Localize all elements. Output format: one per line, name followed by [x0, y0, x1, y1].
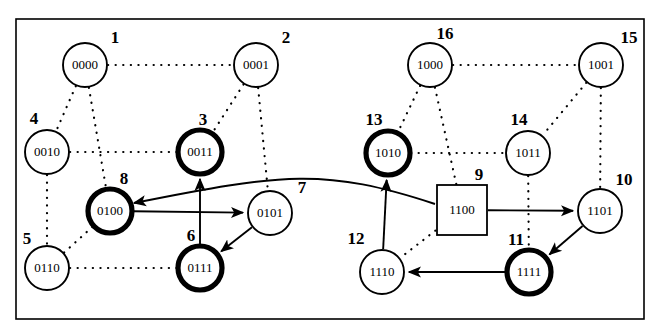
- node-index-15: 15: [621, 28, 638, 47]
- node-index-3: 3: [199, 110, 208, 129]
- edge-1000-1100: [435, 87, 456, 184]
- node-binary-label: 0000: [72, 57, 98, 72]
- edge-0110-0100: [64, 226, 93, 252]
- node-0101[interactable]: 01017: [248, 178, 307, 235]
- node-0000[interactable]: 00001: [63, 28, 119, 87]
- node-0001[interactable]: 00012: [234, 28, 290, 87]
- arrow-0100-to-0101: [133, 211, 243, 212]
- node-index-6: 6: [187, 226, 196, 245]
- node-1011[interactable]: 101114: [506, 110, 550, 175]
- node-0010[interactable]: 00104: [25, 109, 69, 174]
- node-index-1: 1: [111, 28, 120, 47]
- node-1000[interactable]: 100016: [408, 24, 454, 87]
- node-0110[interactable]: 01105: [23, 229, 69, 290]
- node-1100[interactable]: 11009: [437, 165, 487, 235]
- node-binary-label: 0111: [187, 260, 212, 275]
- node-binary-label: 0011: [187, 144, 213, 159]
- node-1111[interactable]: 111111: [507, 230, 551, 294]
- arrow-1101-to-1111: [549, 226, 582, 254]
- node-1001[interactable]: 100115: [579, 28, 638, 87]
- node-1101[interactable]: 110110: [578, 170, 633, 233]
- edge-1001-1101: [600, 88, 601, 188]
- node-index-14: 14: [511, 110, 529, 129]
- node-index-4: 4: [30, 109, 39, 128]
- node-index-13: 13: [366, 110, 383, 129]
- node-binary-label: 1100: [449, 202, 475, 217]
- node-binary-label: 1011: [515, 145, 541, 160]
- edge-0000-0100: [89, 88, 106, 189]
- node-index-7: 7: [298, 178, 307, 197]
- node-1110[interactable]: 111012: [348, 229, 405, 294]
- node-index-10: 10: [616, 170, 633, 189]
- node-0100[interactable]: 01008: [88, 169, 132, 233]
- node-index-12: 12: [348, 229, 365, 248]
- node-binary-label: 1001: [588, 57, 614, 72]
- edge-1001-1011: [543, 83, 587, 136]
- diagram-svg: 0000100012001130010401105011160101701008…: [0, 0, 659, 320]
- node-binary-label: 0100: [97, 203, 123, 218]
- arrow-0101-to-0111: [221, 227, 252, 251]
- node-index-5: 5: [23, 229, 32, 248]
- node-index-9: 9: [475, 165, 484, 184]
- node-binary-label: 1000: [417, 57, 443, 72]
- node-binary-label: 0110: [34, 260, 60, 275]
- arrow-1100-to-1101: [488, 210, 573, 211]
- figure-canvas: 0000100012001130010401105011160101701008…: [0, 0, 659, 320]
- node-index-11: 11: [508, 230, 524, 249]
- node-binary-label: 1101: [587, 203, 613, 218]
- node-index-8: 8: [120, 169, 129, 188]
- edge-1000-1010: [398, 86, 420, 132]
- node-binary-label: 1010: [375, 145, 401, 160]
- edge-1100-1110: [400, 226, 441, 258]
- edge-0000-0010: [56, 86, 76, 131]
- node-index-16: 16: [437, 24, 454, 43]
- node-binary-label: 1110: [369, 264, 394, 279]
- node-index-2: 2: [282, 28, 291, 47]
- edge-1011-1111: [528, 176, 529, 249]
- node-0011[interactable]: 00113: [178, 110, 222, 174]
- node-binary-label: 0001: [243, 57, 269, 72]
- node-binary-label: 1111: [517, 264, 542, 279]
- edge-0001-0101: [258, 88, 268, 190]
- node-binary-label: 0010: [34, 144, 60, 159]
- node-binary-label: 0101: [257, 205, 283, 220]
- edge-0001-0011: [212, 84, 243, 132]
